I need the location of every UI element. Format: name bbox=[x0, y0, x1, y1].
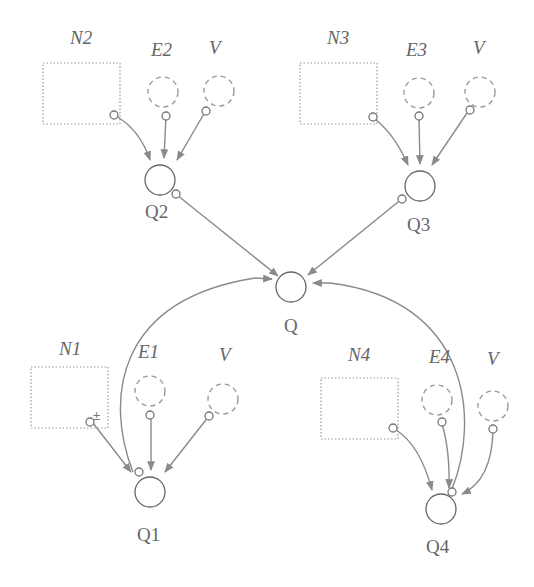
aux-q4[interactable] bbox=[426, 494, 456, 524]
port-e3 bbox=[415, 112, 423, 120]
group-q4: N4 E4 V Q4 bbox=[321, 344, 508, 557]
label-q4: Q4 bbox=[426, 536, 450, 557]
link-v4-q4 bbox=[462, 430, 493, 494]
link-v2-q2 bbox=[177, 112, 205, 160]
label-n1: N1 bbox=[58, 338, 81, 359]
port-n1 bbox=[86, 418, 94, 426]
link-v3-q3 bbox=[432, 113, 467, 165]
ghost-v2[interactable] bbox=[204, 76, 234, 106]
link-q3-q bbox=[308, 198, 403, 275]
port-v3 bbox=[466, 106, 474, 114]
link-q2-q bbox=[177, 195, 278, 276]
port-v1 bbox=[205, 412, 213, 420]
link-n3-q3 bbox=[375, 119, 408, 165]
label-v4: V bbox=[487, 348, 501, 369]
port-e1 bbox=[146, 411, 154, 419]
port-q1 bbox=[135, 468, 143, 476]
label-e4: E4 bbox=[428, 346, 451, 367]
label-e3: E3 bbox=[405, 39, 427, 60]
label-v3: V bbox=[473, 37, 487, 58]
label-n4: N4 bbox=[347, 344, 371, 365]
port-q4 bbox=[448, 488, 456, 496]
stock-n4[interactable] bbox=[321, 378, 398, 439]
aux-q1[interactable] bbox=[135, 477, 165, 507]
ghost-v3[interactable] bbox=[465, 77, 495, 107]
port-q3 bbox=[398, 195, 406, 203]
aux-q2[interactable] bbox=[145, 165, 175, 195]
link-e4-q4 bbox=[442, 424, 449, 488]
label-e1: E1 bbox=[137, 341, 159, 362]
aux-q3[interactable] bbox=[405, 171, 435, 201]
label-v2: V bbox=[209, 37, 223, 58]
ghost-v1[interactable] bbox=[208, 384, 238, 414]
port-n2 bbox=[110, 111, 118, 119]
port-v4 bbox=[489, 425, 497, 433]
ghost-v4[interactable] bbox=[478, 391, 508, 421]
group-q2: N2 E2 V Q2 bbox=[43, 27, 234, 222]
ghost-v3-e3[interactable] bbox=[404, 78, 434, 108]
ghost-e1[interactable] bbox=[135, 376, 165, 406]
port-n3 bbox=[369, 113, 377, 121]
diagram-canvas: N2 E2 V Q2 N3 E3 V Q3 Q bbox=[0, 0, 534, 587]
link-v1-q1 bbox=[165, 416, 209, 472]
port-n4 bbox=[389, 424, 397, 432]
group-q1: N1 E1 V ± Q1 bbox=[31, 338, 238, 545]
port-v2 bbox=[202, 107, 210, 115]
group-q3: N3 E3 V Q3 bbox=[300, 27, 495, 235]
label-n2: N2 bbox=[69, 27, 93, 48]
label-n3: N3 bbox=[326, 27, 349, 48]
ghost-e4[interactable] bbox=[422, 385, 452, 415]
port-e2 bbox=[162, 112, 170, 120]
label-q2: Q2 bbox=[145, 201, 168, 222]
link-q1-q bbox=[120, 278, 272, 472]
label-q3: Q3 bbox=[407, 214, 430, 235]
link-n2-q2 bbox=[116, 116, 150, 160]
ghost-e2[interactable] bbox=[148, 77, 178, 107]
label-v1: V bbox=[219, 344, 233, 365]
aux-q[interactable] bbox=[276, 272, 306, 302]
link-e2-q2 bbox=[164, 116, 166, 158]
stock-n2[interactable] bbox=[43, 63, 120, 124]
port-q2 bbox=[172, 190, 180, 198]
label-q: Q bbox=[284, 315, 298, 336]
label-e2: E2 bbox=[150, 39, 173, 60]
port-e4 bbox=[438, 418, 446, 426]
diagram-svg: N2 E2 V Q2 N3 E3 V Q3 Q bbox=[0, 0, 534, 587]
link-n4-q4 bbox=[396, 430, 432, 490]
link-e3-q3 bbox=[419, 120, 420, 164]
label-q1: Q1 bbox=[137, 524, 160, 545]
stock-n3[interactable] bbox=[300, 63, 377, 124]
